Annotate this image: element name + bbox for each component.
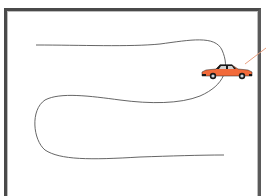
car-icon: [202, 65, 252, 80]
winding-path: [35, 40, 226, 159]
leader-line: [245, 48, 266, 64]
diagram-canvas: [0, 0, 267, 196]
